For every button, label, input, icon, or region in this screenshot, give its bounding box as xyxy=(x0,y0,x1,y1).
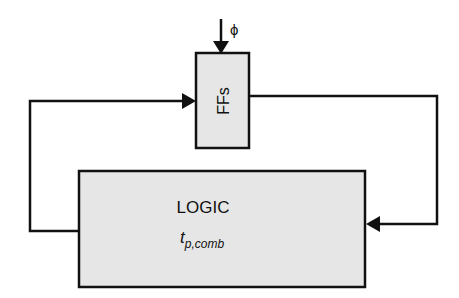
clock-input-arrow xyxy=(213,19,229,54)
logic-label: LOGIC xyxy=(177,198,230,217)
delay-subscript: p,comb xyxy=(184,237,225,251)
ffs-label: FFs xyxy=(215,87,232,115)
clock-phi-label: ϕ xyxy=(230,21,238,38)
logic-block xyxy=(79,171,365,287)
sequential-circuit-diagram: ϕ FFs LOGIC tp,comb xyxy=(0,0,459,298)
